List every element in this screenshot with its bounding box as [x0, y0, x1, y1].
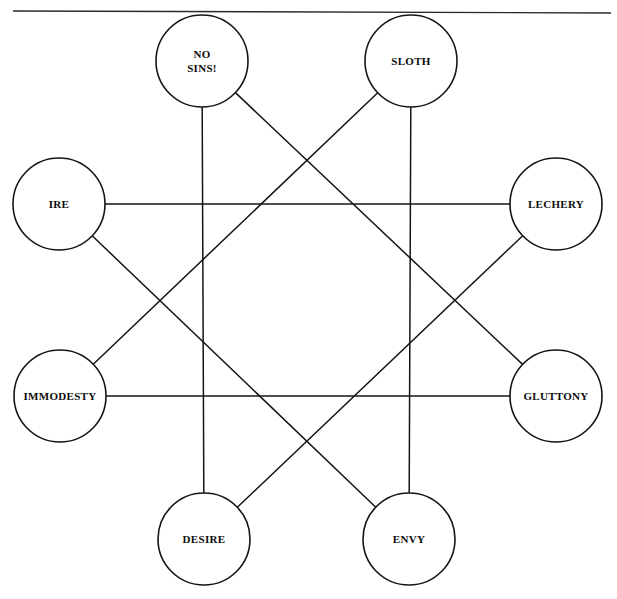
node-no-sins[interactable]: NOSINS! [156, 15, 248, 107]
edge-no-sins-gluttony [235, 93, 522, 365]
node-envy[interactable]: ENVY [363, 493, 455, 585]
top-rule-layer [13, 11, 611, 13]
node-label-desire: DESIRE [183, 533, 226, 545]
node-gluttony[interactable]: GLUTTONY [510, 350, 602, 442]
node-label-lechery: LECHERY [528, 198, 584, 210]
edge-lechery-desire [237, 236, 522, 508]
top-horizontal-rule [13, 11, 611, 13]
node-desire[interactable]: DESIRE [158, 493, 250, 585]
node-label-sloth: SLOTH [391, 55, 431, 67]
edge-ire-envy [92, 236, 376, 507]
node-layer: NOSINS!SLOTHIRELECHERYIMMODESTYGLUTTONYD… [13, 15, 602, 585]
edge-sloth-envy [409, 107, 411, 493]
node-circle-no-sins[interactable] [156, 15, 248, 107]
node-immodesty[interactable]: IMMODESTY [14, 350, 106, 442]
edge-layer [92, 93, 522, 508]
sins-star-diagram: NOSINS!SLOTHIRELECHERYIMMODESTYGLUTTONYD… [0, 0, 617, 599]
node-label-immodesty: IMMODESTY [24, 390, 97, 402]
node-label-gluttony: GLUTTONY [523, 390, 588, 402]
node-label-ire: IRE [49, 198, 69, 210]
diagram-page: NOSINS!SLOTHIRELECHERYIMMODESTYGLUTTONYD… [0, 0, 617, 599]
edge-sloth-immodesty [93, 93, 377, 364]
node-label-envy: ENVY [393, 533, 425, 545]
edge-no-sins-desire [202, 107, 204, 493]
node-sloth[interactable]: SLOTH [365, 15, 457, 107]
node-lechery[interactable]: LECHERY [510, 158, 602, 250]
node-ire[interactable]: IRE [13, 158, 105, 250]
